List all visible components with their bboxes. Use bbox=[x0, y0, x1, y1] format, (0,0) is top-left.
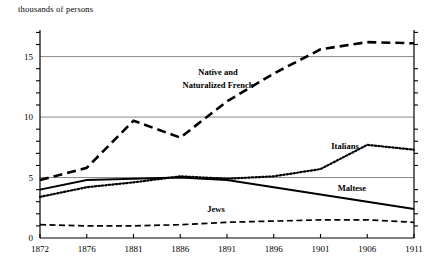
x-tick-label: 1911 bbox=[405, 244, 423, 254]
series-labels: Native and Naturalized French Italians M… bbox=[183, 67, 367, 214]
y-axis-ticks bbox=[36, 32, 418, 225]
x-tick-label: 1901 bbox=[312, 244, 330, 254]
axes bbox=[40, 30, 414, 238]
x-tick-label: 1881 bbox=[125, 244, 143, 254]
label-italians: Italians bbox=[331, 141, 359, 151]
label-jews: Jews bbox=[207, 204, 225, 214]
y-tick-label: 15 bbox=[24, 52, 34, 62]
label-french-line2: Naturalized French bbox=[183, 80, 254, 90]
x-tick-label: 1886 bbox=[171, 244, 190, 254]
y-axis-tick-labels: 051015 bbox=[24, 52, 34, 243]
y-tick-label: 10 bbox=[24, 112, 34, 122]
chart-figure: thousands of persons 051015 187218761881… bbox=[0, 0, 431, 265]
label-french-line1: Native and bbox=[198, 67, 238, 77]
series-line-jews bbox=[40, 220, 414, 226]
x-tick-label: 1891 bbox=[218, 244, 236, 254]
x-tick-label: 1876 bbox=[78, 244, 97, 254]
x-tick-label: 1896 bbox=[265, 244, 284, 254]
x-tick-label: 1872 bbox=[31, 244, 49, 254]
series-line-french bbox=[40, 42, 414, 180]
chart-canvas: 051015 187218761881188618911896190119061… bbox=[0, 0, 431, 265]
x-axis-tick-labels: 187218761881188618911896190119061911 bbox=[31, 244, 423, 254]
y-tick-label: 5 bbox=[29, 173, 34, 183]
y-tick-label: 0 bbox=[29, 233, 34, 243]
label-maltese: Maltese bbox=[338, 183, 367, 193]
x-tick-label: 1906 bbox=[358, 244, 377, 254]
